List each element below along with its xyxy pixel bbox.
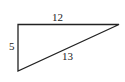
- side-label-top: 12: [52, 11, 63, 23]
- side-label-hypotenuse: 13: [62, 50, 74, 62]
- right-triangle: [18, 25, 119, 72]
- side-label-vertical: 5: [9, 40, 15, 52]
- triangle-diagram: 12 5 13: [0, 0, 125, 82]
